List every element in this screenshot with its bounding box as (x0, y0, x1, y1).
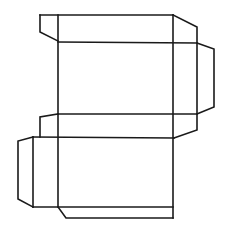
top-right-slant (173, 15, 197, 138)
bottom-flap (58, 207, 173, 218)
fold-line-1 (58, 42, 197, 43)
box-net-diagram (0, 0, 228, 235)
top-left-flap (40, 15, 58, 41)
left-side-flap (18, 137, 33, 207)
fold-line-3 (33, 137, 174, 138)
right-flap (197, 43, 214, 114)
second-left-flap (40, 114, 58, 137)
box-net-svg (0, 0, 228, 235)
